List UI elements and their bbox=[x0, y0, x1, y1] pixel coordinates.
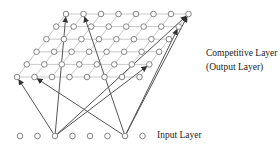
output-neuron bbox=[53, 24, 59, 30]
output-neuron bbox=[121, 49, 127, 55]
output-neuron bbox=[104, 49, 110, 55]
output-neuron bbox=[77, 62, 83, 68]
input-neuron bbox=[52, 133, 58, 139]
output-neuron bbox=[149, 36, 155, 42]
input-neuron bbox=[105, 133, 111, 139]
connection-arrow bbox=[126, 30, 177, 134]
output-neuron bbox=[106, 24, 112, 30]
output-neuron bbox=[86, 49, 92, 55]
output-neuron bbox=[137, 74, 143, 80]
output-neuron bbox=[147, 62, 153, 68]
input-neuron bbox=[35, 133, 41, 139]
output-neuron bbox=[119, 74, 125, 80]
output-neuron bbox=[94, 62, 100, 68]
competitive-layer-label: Competitive Layer bbox=[206, 47, 278, 60]
output-neuron bbox=[42, 62, 48, 68]
input-neuron bbox=[70, 133, 76, 139]
output-neuron bbox=[133, 11, 139, 17]
output-neuron bbox=[24, 62, 30, 68]
grid-lines bbox=[17, 14, 189, 77]
output-neuron bbox=[84, 74, 90, 80]
output-neuron bbox=[32, 74, 38, 80]
output-neuron bbox=[114, 36, 120, 42]
output-neuron bbox=[141, 24, 147, 30]
output-neuron bbox=[59, 62, 65, 68]
output-layer-label: (Output Layer) bbox=[206, 61, 263, 74]
connection-arrow bbox=[37, 79, 122, 134]
output-neuron bbox=[88, 24, 94, 30]
output-neuron bbox=[96, 36, 102, 42]
output-neuron bbox=[102, 74, 108, 80]
output-neuron bbox=[112, 62, 118, 68]
connection-arrow bbox=[19, 80, 53, 134]
output-neuron bbox=[34, 49, 40, 55]
input-neuron bbox=[140, 133, 146, 139]
output-neuron bbox=[61, 36, 67, 42]
output-neuron bbox=[67, 74, 73, 80]
output-neuron bbox=[139, 49, 145, 55]
output-neuron bbox=[176, 24, 182, 30]
output-neuron bbox=[168, 11, 174, 17]
output-neuron bbox=[151, 11, 157, 17]
output-neuron bbox=[186, 11, 192, 17]
output-neuron bbox=[44, 36, 50, 42]
input-layer-nodes bbox=[17, 133, 145, 139]
output-neuron bbox=[81, 11, 87, 17]
output-neuron bbox=[129, 62, 135, 68]
output-neuron bbox=[49, 74, 55, 80]
output-neuron bbox=[71, 24, 77, 30]
som-diagram bbox=[0, 0, 280, 152]
output-neuron bbox=[51, 49, 57, 55]
output-neuron bbox=[156, 49, 162, 55]
output-neuron bbox=[166, 36, 172, 42]
input-neuron bbox=[122, 133, 128, 139]
output-neuron bbox=[79, 36, 85, 42]
input-neuron bbox=[87, 133, 93, 139]
output-neuron bbox=[98, 11, 104, 17]
input-layer-label: Input Layer bbox=[157, 129, 202, 142]
output-neuron bbox=[69, 49, 75, 55]
output-neuron bbox=[131, 36, 137, 42]
output-neuron bbox=[14, 74, 20, 80]
connection-arrow bbox=[55, 17, 65, 133]
output-neuron bbox=[123, 24, 129, 30]
output-neuron bbox=[116, 11, 122, 17]
output-neuron bbox=[63, 11, 69, 17]
input-neuron bbox=[17, 133, 23, 139]
output-neuron bbox=[158, 24, 164, 30]
